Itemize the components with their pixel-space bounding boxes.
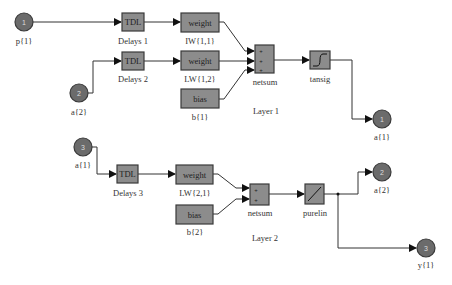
svg-text:TDL: TDL — [125, 17, 142, 27]
svg-text:weight: weight — [188, 56, 212, 66]
input-port-a2[interactable]: 2 a{2} — [70, 84, 88, 117]
weight-lw12-block[interactable]: weight LW{1,2} — [181, 51, 219, 84]
svg-text:3: 3 — [424, 245, 428, 252]
svg-text:tansig: tansig — [310, 74, 331, 84]
svg-text:Delays 3: Delays 3 — [113, 188, 143, 198]
svg-text:TDL: TDL — [119, 169, 136, 179]
delays-1-block[interactable]: TDL Delays 1 — [118, 13, 148, 46]
svg-text:3: 3 — [81, 144, 85, 151]
svg-text:IW{1,1}: IW{1,1} — [185, 36, 215, 46]
output-port-y1[interactable]: 3 y{1} — [417, 239, 435, 270]
input-port-a1-layer2[interactable]: 3 a{1} — [74, 138, 92, 170]
svg-text:1: 1 — [380, 116, 384, 123]
svg-text:weight: weight — [183, 170, 207, 180]
svg-text:LW{1,2}: LW{1,2} — [184, 74, 215, 84]
svg-text:LW{2,1}: LW{2,1} — [179, 188, 210, 198]
svg-text:+: + — [254, 197, 258, 203]
netsum-2-block[interactable]: + + netsum — [248, 184, 273, 218]
svg-text:bias: bias — [193, 94, 207, 104]
branch-junction — [337, 193, 340, 196]
svg-text:Delays 2: Delays 2 — [118, 74, 148, 84]
output-port-a1[interactable]: 1 a{1} — [373, 110, 391, 142]
delays-2-block[interactable]: TDL Delays 2 — [118, 52, 148, 84]
svg-text:netsum: netsum — [253, 77, 278, 87]
svg-text:p{1}: p{1} — [16, 36, 33, 46]
svg-text:+: + — [254, 187, 258, 193]
svg-text:+: + — [259, 58, 263, 64]
bias-b2-block[interactable]: bias b{2} — [176, 205, 213, 237]
svg-text:a{1}: a{1} — [374, 132, 390, 142]
svg-text:+: + — [259, 67, 263, 73]
svg-text:netsum: netsum — [248, 208, 273, 218]
weight-lw21-block[interactable]: weight LW{2,1} — [176, 165, 213, 198]
delays-3-block[interactable]: TDL Delays 3 — [113, 165, 143, 198]
weight-iw11-block[interactable]: weight IW{1,1} — [181, 13, 219, 46]
layer-2-title: Layer 2 — [252, 233, 278, 243]
svg-text:b{1}: b{1} — [192, 112, 209, 122]
purelin-block[interactable]: purelin — [303, 184, 328, 218]
svg-text:1: 1 — [22, 19, 26, 26]
svg-text:+: + — [259, 48, 263, 54]
tansig-block[interactable]: tansig — [310, 51, 331, 84]
svg-text:Delays 1: Delays 1 — [118, 36, 148, 46]
svg-text:2: 2 — [77, 90, 81, 97]
output-port-a2[interactable]: 2 a{2} — [373, 163, 391, 195]
svg-text:b{2}: b{2} — [187, 227, 204, 237]
svg-text:a{2}: a{2} — [71, 107, 87, 117]
svg-text:a{1}: a{1} — [75, 160, 91, 170]
input-port-p1[interactable]: 1 p{1} — [15, 13, 33, 46]
svg-text:2: 2 — [380, 169, 384, 176]
neural-network-diagram: 1 p{1} 2 a{2} TDL Delays 1 TDL Delays 2 … — [0, 0, 452, 285]
svg-text:y{1}: y{1} — [418, 260, 435, 270]
svg-text:a{2}: a{2} — [374, 185, 390, 195]
svg-text:purelin: purelin — [303, 208, 328, 218]
svg-text:bias: bias — [188, 210, 202, 220]
svg-text:weight: weight — [188, 18, 212, 28]
layer-1-title: Layer 1 — [253, 106, 279, 116]
svg-text:TDL: TDL — [125, 56, 142, 66]
netsum-1-block[interactable]: + + + netsum — [253, 45, 278, 87]
bias-b1-block[interactable]: bias b{1} — [181, 89, 219, 122]
